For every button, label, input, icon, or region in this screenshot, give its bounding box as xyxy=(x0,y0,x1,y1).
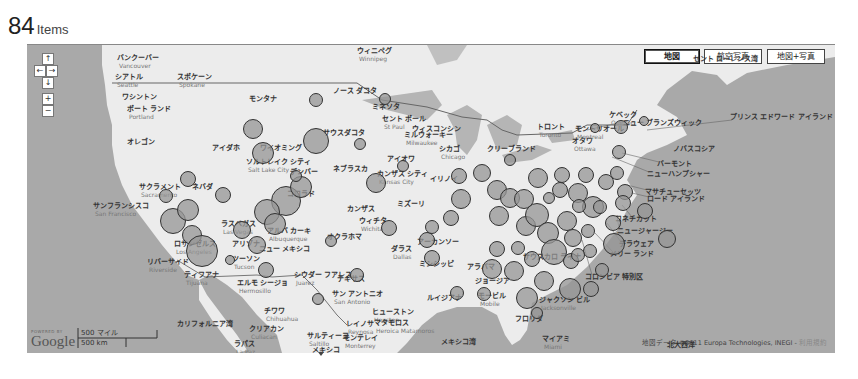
land-layer xyxy=(27,45,835,353)
data-bubble[interactable] xyxy=(325,235,337,247)
data-bubble[interactable] xyxy=(615,195,631,211)
data-bubble[interactable] xyxy=(559,278,581,300)
data-bubble[interactable] xyxy=(583,281,599,297)
data-bubble[interactable] xyxy=(425,220,439,234)
place-label: チワワ xyxy=(264,307,285,315)
data-bubble[interactable] xyxy=(516,287,538,309)
data-bubble[interactable] xyxy=(477,287,491,301)
data-bubble[interactable] xyxy=(612,145,626,159)
zoom-out-button[interactable]: − xyxy=(42,105,54,117)
data-bubble[interactable] xyxy=(583,244,597,258)
data-bubble[interactable] xyxy=(424,250,440,266)
place-label: ヒューストン xyxy=(372,308,414,316)
data-bubble[interactable] xyxy=(489,241,505,257)
data-bubble[interactable] xyxy=(590,123,600,133)
place-label: アイダホ xyxy=(212,144,240,152)
terms-link[interactable]: 利用規約 xyxy=(799,339,827,347)
data-bubble[interactable] xyxy=(309,93,323,107)
place-label-romanized: Mobile xyxy=(480,300,500,307)
place-label: マタモロス xyxy=(374,319,409,327)
data-bubble[interactable] xyxy=(595,263,609,277)
data-bubble[interactable] xyxy=(534,271,554,291)
data-bubble[interactable] xyxy=(248,236,266,254)
data-bubble[interactable] xyxy=(186,235,218,267)
data-bubble[interactable] xyxy=(489,206,509,226)
data-bubble[interactable] xyxy=(177,199,199,221)
data-bubble[interactable] xyxy=(290,170,302,182)
data-bubble[interactable] xyxy=(303,128,329,154)
data-bubble[interactable] xyxy=(450,286,464,300)
data-bubble[interactable] xyxy=(605,215,621,231)
place-label: プリンス エドワード アイランド xyxy=(730,113,833,121)
place-label: ワシントン xyxy=(122,93,157,101)
pan-up-button[interactable]: ↑ xyxy=(42,53,54,65)
data-bubble[interactable] xyxy=(564,229,582,247)
data-bubble[interactable] xyxy=(451,168,467,184)
map-canvas[interactable]: ↑ ← → ↓ + − 地図 航空写真 地図+写真 ウィニペグWinnipegバ… xyxy=(27,44,835,353)
place-label: ロード アイランド xyxy=(647,195,705,203)
data-bubble[interactable] xyxy=(531,307,543,319)
zoom-in-button[interactable]: + xyxy=(42,93,54,105)
scale-bar: 500 マイル 500 km xyxy=(77,327,192,349)
data-bubble[interactable] xyxy=(252,142,274,164)
data-bubble[interactable] xyxy=(511,241,525,255)
pan-down-button[interactable]: ↓ xyxy=(42,77,54,89)
data-bubble[interactable] xyxy=(528,168,548,188)
pan-left-button[interactable]: ← xyxy=(34,65,46,77)
place-label-romanized: Vancouver xyxy=(119,62,151,69)
data-bubble[interactable] xyxy=(571,248,585,262)
item-count: 84Items xyxy=(8,14,69,42)
data-bubble[interactable] xyxy=(258,262,274,278)
data-bubble[interactable] xyxy=(639,116,649,126)
map-type-map-button[interactable]: 地図 xyxy=(644,49,700,64)
place-label: ノバスコシア xyxy=(673,145,715,153)
data-bubble[interactable] xyxy=(473,164,491,182)
place-label-romanized: Miami xyxy=(544,343,562,350)
google-logo[interactable]: POWERED BY Google xyxy=(31,329,75,349)
pan-right-button[interactable]: → xyxy=(46,65,58,77)
data-bubble[interactable] xyxy=(451,189,471,209)
data-bubble[interactable] xyxy=(264,213,286,235)
data-bubble[interactable] xyxy=(572,199,586,213)
data-bubble[interactable] xyxy=(581,224,595,238)
data-bubble[interactable] xyxy=(557,211,577,231)
data-bubble[interactable] xyxy=(381,220,397,236)
data-bubble[interactable] xyxy=(397,160,409,172)
data-bubble[interactable] xyxy=(215,187,231,203)
item-count-number: 84 xyxy=(8,12,35,39)
data-bubble[interactable] xyxy=(312,293,324,305)
place-label: シアトル xyxy=(115,73,143,81)
data-bubble[interactable] xyxy=(614,120,628,134)
data-bubble[interactable] xyxy=(350,268,364,282)
data-bubble[interactable] xyxy=(354,138,366,150)
place-label: ニュー メキシコ xyxy=(259,245,310,253)
data-bubble[interactable] xyxy=(419,232,435,248)
place-label: スポケーン xyxy=(177,73,212,81)
data-bubble[interactable] xyxy=(225,255,235,265)
data-bubble[interactable] xyxy=(366,173,386,193)
data-bubble[interactable] xyxy=(603,233,625,255)
data-bubble[interactable] xyxy=(610,166,624,180)
data-bubble[interactable] xyxy=(504,261,524,281)
place-label: ウィスコンシン xyxy=(412,125,461,133)
data-bubble[interactable] xyxy=(482,259,502,279)
data-bubble[interactable] xyxy=(524,251,540,267)
data-bubble[interactable] xyxy=(593,200,607,214)
data-bubble[interactable] xyxy=(243,119,263,139)
data-bubble[interactable] xyxy=(543,192,555,204)
place-label: シウダー フアレス xyxy=(294,271,352,279)
data-bubble[interactable] xyxy=(443,210,459,226)
data-bubble[interactable] xyxy=(578,167,594,183)
place-label: ティフアナ xyxy=(184,271,219,279)
data-bubble[interactable] xyxy=(180,171,196,187)
data-bubble[interactable] xyxy=(637,203,653,219)
data-bubble[interactable] xyxy=(159,189,173,203)
place-label-romanized: Milwaukee xyxy=(406,139,438,146)
data-bubble[interactable] xyxy=(504,154,516,166)
data-bubble[interactable] xyxy=(554,167,570,183)
map-type-hybrid-button[interactable]: 地図+写真 xyxy=(767,49,825,64)
data-bubble[interactable] xyxy=(658,230,676,248)
data-bubble[interactable] xyxy=(233,221,251,239)
place-label: ラパス xyxy=(234,340,255,348)
data-bubble[interactable] xyxy=(379,93,391,105)
